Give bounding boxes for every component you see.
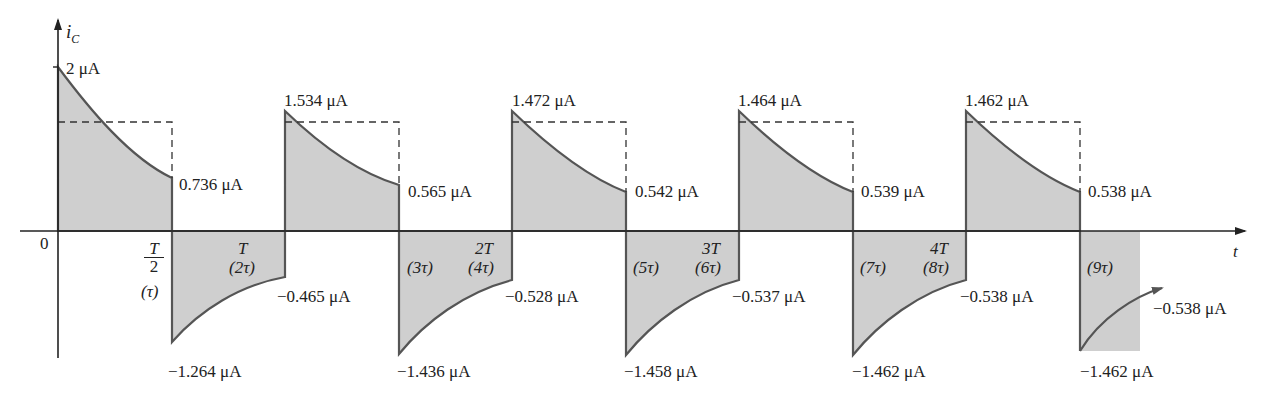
- neg-seg-3: [626, 231, 739, 355]
- time-label-3tau: (3τ): [407, 259, 433, 276]
- time-label-5tau: (5τ): [633, 259, 659, 276]
- pos-start-label-4: 1.464 μA: [738, 92, 802, 109]
- x-axis-label: t: [1233, 243, 1238, 260]
- neg-seg-2: [399, 231, 512, 354]
- time-label-8tau: (8τ): [923, 259, 949, 276]
- time-label-9tau: (9τ): [1087, 259, 1113, 276]
- pos-seg-1: [58, 67, 172, 231]
- time-label-T: T: [238, 240, 247, 257]
- pos-end-label-2: 0.565 μA: [408, 183, 472, 200]
- time-label-4T: 4T: [930, 240, 948, 257]
- time-label-half-T: T 2: [144, 240, 164, 275]
- neg-start-label-5: −1.462 μA: [1080, 363, 1153, 380]
- pos-seg-3: [512, 111, 626, 231]
- pos-end-label-1: 0.736 μA: [179, 176, 243, 193]
- neg-start-label-4: −1.462 μA: [852, 363, 925, 380]
- pos-start-label-1: 2 μA: [66, 60, 100, 77]
- y-axis-label: iC: [66, 22, 79, 45]
- time-label-3T: 3T: [702, 240, 720, 257]
- pos-end-label-5: 0.538 μA: [1088, 183, 1152, 200]
- time-label-4tau: (4τ): [468, 259, 494, 276]
- neg-end-label-2: −0.528 μA: [505, 288, 578, 305]
- pos-seg-5: [966, 111, 1080, 231]
- time-label-2T: 2T: [475, 240, 493, 257]
- neg-end-label-4: −0.538 μA: [960, 288, 1033, 305]
- time-label-2tau: (2τ): [229, 259, 255, 276]
- time-label-7tau: (7τ): [860, 259, 886, 276]
- origin-label: 0: [40, 235, 49, 252]
- pos-seg-2: [285, 111, 399, 231]
- pos-seg-4: [739, 111, 853, 231]
- neg-start-label-2: −1.436 μA: [397, 363, 470, 380]
- pos-start-label-3: 1.472 μA: [512, 92, 576, 109]
- neg-seg-4: [853, 231, 966, 355]
- time-label-tau: (τ): [141, 283, 158, 300]
- time-label-6tau: (6τ): [695, 259, 721, 276]
- neg-end-label-3: −0.537 μA: [732, 288, 805, 305]
- neg-end-label-1: −0.465 μA: [277, 288, 350, 305]
- pos-end-label-4: 0.539 μA: [861, 183, 925, 200]
- neg-seg-1: [172, 231, 285, 342]
- waveform-diagram: [0, 0, 1266, 403]
- neg-end-label-5: −0.538 μA: [1153, 300, 1226, 317]
- neg-seg-5-shade: [1080, 231, 1140, 351]
- neg-start-label-3: −1.458 μA: [624, 363, 697, 380]
- pos-start-label-2: 1.534 μA: [284, 92, 348, 109]
- pos-start-label-5: 1.462 μA: [965, 92, 1029, 109]
- pos-end-label-3: 0.542 μA: [635, 183, 699, 200]
- neg-start-label-1: −1.264 μA: [168, 363, 241, 380]
